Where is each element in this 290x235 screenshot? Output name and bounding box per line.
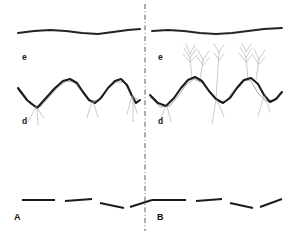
dash-segment bbox=[196, 199, 222, 201]
panel-b: e d B bbox=[150, 28, 282, 222]
sprout-branch bbox=[219, 54, 224, 60]
panel-a-layer-label-e: e bbox=[22, 52, 27, 62]
panel-a-middle-wavy-curve bbox=[18, 79, 140, 125]
sprout-branch bbox=[219, 45, 224, 52]
panel-b-top-smooth-curve bbox=[152, 28, 282, 34]
sprout-branch bbox=[254, 49, 259, 59]
dash-segment bbox=[230, 203, 253, 208]
root-branch bbox=[258, 96, 264, 116]
panel-b-root-branches bbox=[160, 96, 270, 124]
root-branch bbox=[127, 96, 132, 114]
panel-a-top-curve-path bbox=[18, 29, 140, 34]
sprout-branch bbox=[242, 43, 246, 52]
panel-b-bottom-dashed-line bbox=[152, 199, 282, 208]
panel-b-layer-label-e: e bbox=[158, 52, 163, 62]
sprout-branch bbox=[246, 48, 252, 57]
dash-segment bbox=[260, 199, 282, 207]
panel-b-title-label: B bbox=[157, 212, 164, 222]
dash-segment bbox=[130, 200, 152, 207]
panel-a: e d A bbox=[14, 29, 152, 222]
panel-a-bottom-dashed-line bbox=[22, 199, 152, 208]
figure-canvas: e d A bbox=[0, 0, 290, 235]
sprout-branch bbox=[239, 53, 246, 62]
panel-b-middle-wavy-curve bbox=[150, 77, 282, 124]
root-branch bbox=[87, 101, 92, 118]
figure-container: e d A bbox=[0, 0, 290, 235]
sprout-branch bbox=[214, 44, 219, 52]
root-branch bbox=[37, 108, 38, 125]
root-branch bbox=[28, 107, 36, 122]
dash-segment bbox=[100, 203, 124, 208]
panel-a-layer-label-d: d bbox=[22, 116, 27, 126]
sprout-branch bbox=[198, 50, 203, 60]
root-branch bbox=[212, 100, 216, 124]
panel-b-sprout-structures bbox=[183, 43, 265, 99]
panel-b-layer-label-d: d bbox=[158, 116, 163, 126]
panel-a-title-label: A bbox=[14, 212, 21, 222]
sprout-branch bbox=[190, 45, 195, 54]
sprout-branch bbox=[183, 54, 190, 62]
root-branch bbox=[167, 106, 171, 122]
panel-a-wave-path bbox=[18, 79, 140, 108]
panel-a-top-smooth-curve bbox=[18, 29, 140, 34]
dash-segment bbox=[65, 199, 92, 201]
sprout-branch bbox=[214, 53, 219, 60]
panel-b-top-curve-path bbox=[152, 28, 282, 34]
